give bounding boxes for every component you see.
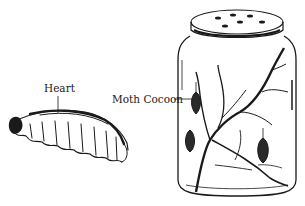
caterpillar-head bbox=[9, 117, 23, 134]
moth-cocoon-label: Moth Cocoon bbox=[112, 94, 183, 105]
cocoons bbox=[186, 92, 269, 163]
illustration: Heart Moth Cocoon bbox=[0, 0, 305, 206]
lid-air-holes bbox=[215, 14, 265, 28]
heart-label: Heart bbox=[44, 83, 75, 94]
caterpillar-drawing bbox=[14, 110, 128, 162]
